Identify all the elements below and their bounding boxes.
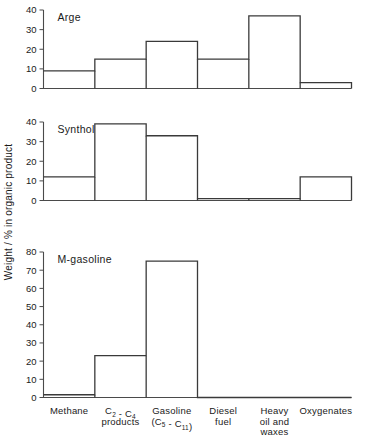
y-tick-label: 10 — [26, 63, 37, 74]
x-category-label: Methane — [50, 405, 88, 416]
panel-title: M-gasoline — [58, 253, 112, 265]
y-tick-label: 80 — [26, 246, 37, 257]
x-category-label: (C5 - C11) — [151, 416, 192, 432]
y-tick-label: 10 — [26, 175, 37, 186]
y-tick-label: 40 — [26, 4, 37, 15]
chart-figure: 010203040Arge010203040Synthol01020304050… — [0, 0, 381, 442]
step-outline — [44, 261, 352, 397]
y-tick-label: 30 — [26, 24, 37, 35]
y-tick-label: 70 — [26, 265, 37, 276]
x-category-label: oil and — [260, 416, 289, 427]
panel-m-gasoline: 01020304050607080M-gasoline — [26, 246, 352, 403]
panel-synthol: 010203040Synthol — [26, 116, 352, 205]
y-tick-label: 0 — [31, 83, 36, 94]
y-tick-label: 40 — [26, 116, 37, 127]
y-tick-label: 0 — [31, 392, 36, 403]
x-category-label: Oxygenates — [299, 405, 352, 416]
panel-arge: 010203040Arge — [26, 4, 352, 94]
y-tick-label: 20 — [26, 44, 37, 55]
y-tick-label: 30 — [26, 136, 37, 147]
x-category-label: products — [101, 416, 139, 427]
y-tick-label: 30 — [26, 337, 37, 348]
x-category-label: fuel — [215, 416, 231, 427]
x-category-label: Heavy — [261, 405, 289, 416]
y-tick-label: 10 — [26, 374, 37, 385]
x-category-label: Gasoline — [152, 405, 191, 416]
grouped-step-bar-chart: 010203040Arge010203040Synthol01020304050… — [0, 0, 381, 442]
panel-title: Arge — [58, 11, 81, 23]
y-tick-label: 20 — [26, 156, 37, 167]
y-axis-title: Weight / % in organic product — [3, 144, 14, 280]
y-tick-label: 40 — [26, 319, 37, 330]
y-tick-label: 60 — [26, 283, 37, 294]
x-axis-category-labels: MethaneC2 - C4productsGasoline(C5 - C11)… — [50, 405, 352, 437]
y-tick-label: 0 — [31, 195, 36, 206]
panel-title: Synthol — [58, 123, 95, 135]
x-category-label: Diesel — [209, 405, 237, 416]
y-tick-label: 50 — [26, 301, 37, 312]
y-tick-label: 20 — [26, 356, 37, 367]
step-outline — [44, 124, 352, 201]
x-category-label: waxes — [260, 426, 289, 437]
